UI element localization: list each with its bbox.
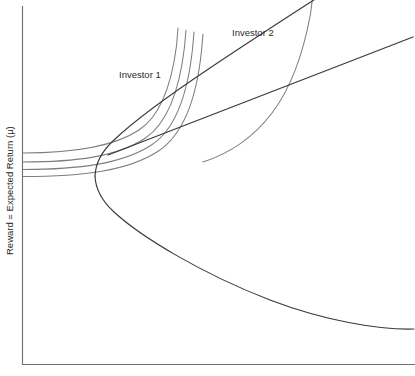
chart-canvas: Investor 1 Investor 2 Reward = Expected …	[0, 0, 415, 376]
frontier-lower-branch	[95, 176, 414, 329]
investor1-label: Investor 1	[119, 69, 161, 80]
investor1-indifference-curves	[22, 28, 203, 177]
indifference-curve-i2-a	[203, 0, 313, 162]
capital-market-line	[108, 37, 413, 155]
investor2-label: Investor 2	[232, 27, 274, 38]
axes-group	[22, 6, 415, 365]
investor2-indifference-curves	[203, 0, 313, 162]
efficient-frontier-hyperbola	[95, 0, 414, 329]
indifference-curve-i1-a	[22, 28, 178, 153]
indifference-curve-i1-b	[22, 30, 186, 162]
efficient-frontier-chart: Investor 1 Investor 2 Reward = Expected …	[0, 0, 415, 376]
y-axis-title: Reward = Expected Return (μ)	[4, 126, 15, 255]
indifference-curve-i1-c	[22, 32, 194, 170]
capital-market-line-group	[108, 37, 413, 155]
indifference-curve-i1-d	[22, 34, 203, 177]
